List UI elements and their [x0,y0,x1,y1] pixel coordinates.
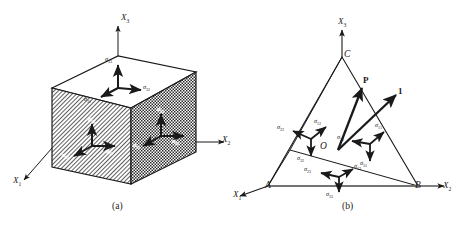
label-sigma-12-front: σ12 [106,148,113,156]
arrow-sigma-23 [321,173,339,177]
axis-label-x1: X1 [233,190,241,201]
panel-a-caption: (a) [112,202,123,212]
cube-body [52,56,196,184]
label-sigma-32-top: σ32 [143,84,150,92]
label-sigma-33-top: σ33 [105,56,112,64]
label-sigma-11-right: σ11 [375,122,382,130]
label-sigma-32-left: σ32 [297,155,304,163]
stress-triad-right-face [352,132,384,161]
vertex-label-B: B [415,181,421,191]
label-sigma-22-right: σ22 [172,138,179,146]
label-sigma-33-bottom: σ33 [326,191,333,199]
panel-a-drawing [0,0,232,229]
panel-b-drawing [232,0,464,229]
label-sigma-13-bottom: σ13 [354,163,361,171]
label-sigma-21-right: σ21 [133,142,140,150]
label-sigma-23-right: σ23 [157,106,164,114]
arrow-sigma-13 [339,169,353,177]
label-sigma-23-bottom: σ23 [304,166,311,174]
axis-x1-line [240,186,268,196]
arrow-unit-normal-1 [338,95,396,150]
panel-b-tetrahedron: X3 X2 X1 O A B C P 1 σ22 σ12 σ32 σ21 σ11… [232,0,464,229]
vector-label-P: P [363,76,369,85]
label-sigma-21-right: σ21 [337,134,344,142]
axis-label-x3: X3 [121,13,129,24]
arrow-sigma-11 [370,132,384,144]
axis-label-x2: X2 [222,135,230,146]
label-sigma-31-top: σ31 [84,96,91,104]
vector-label-1: 1 [398,87,403,96]
arrow-sigma-21 [352,141,370,144]
stress-triad-bottom-face [321,169,353,192]
label-sigma-12-left: σ12 [314,118,321,126]
traction-vectors [338,88,396,150]
label-sigma-22-left: σ22 [277,124,284,132]
panel-b-caption: (b) [342,202,353,212]
vertex-label-O: O [320,142,327,152]
vertex-label-C: C [344,50,350,60]
axis-label-x3: X3 [338,17,346,28]
panel-a-cube: X3 X2 X1 σ33 σ32 σ31 σ13 σ12 σ11 σ23 σ22… [0,0,232,229]
arrow-sigma-12 [311,127,326,139]
tetrahedron-edges [268,57,418,186]
label-sigma-13-front: σ13 [88,116,95,124]
inclined-face-ABC [268,57,418,186]
axis-x1-line [24,148,52,180]
vertex-label-A: A [265,181,271,191]
axis-label-x2: X2 [443,181,451,192]
edge-OA [268,150,290,186]
panel-b-axes [240,30,444,196]
axis-label-x1: X1 [13,176,21,187]
label-sigma-11-front: σ11 [62,152,69,160]
